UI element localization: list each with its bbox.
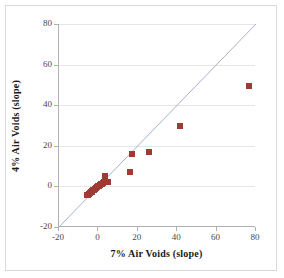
y-axis-title: 4% Air Voids (slope) (10, 80, 21, 172)
y-tick-label: 0 (24, 181, 52, 190)
x-tick-mark (58, 227, 59, 231)
y-tick-label: 60 (24, 60, 52, 69)
plot-area (58, 24, 255, 227)
y-tick-label: 80 (24, 19, 52, 28)
x-tick-mark (255, 227, 256, 231)
x-tick-label: 80 (240, 233, 270, 242)
data-point (127, 169, 133, 175)
data-point (129, 151, 135, 157)
y-tick-label: -20 (24, 222, 52, 231)
y-axis-title-wrap: 4% Air Voids (slope) (8, 24, 22, 227)
data-point (246, 83, 252, 89)
x-axis-title: 7% Air Voids (slope) (58, 248, 255, 259)
x-tick-mark (216, 227, 217, 231)
y-tick-label: 20 (24, 141, 52, 150)
data-point (105, 179, 111, 185)
x-tick-mark (97, 227, 98, 231)
chart-figure: -20020406080 -20020406080 7% Air Voids (… (0, 0, 284, 278)
x-tick-mark (137, 227, 138, 231)
x-tick-mark (176, 227, 177, 231)
x-tick-label: 20 (122, 233, 152, 242)
x-tick-label: 0 (82, 233, 112, 242)
data-point (146, 149, 152, 155)
y-tick-label: 40 (24, 100, 52, 109)
data-point (177, 123, 183, 129)
x-tick-label: 60 (201, 233, 231, 242)
x-tick-label: 40 (161, 233, 191, 242)
x-tick-label: -20 (43, 233, 73, 242)
